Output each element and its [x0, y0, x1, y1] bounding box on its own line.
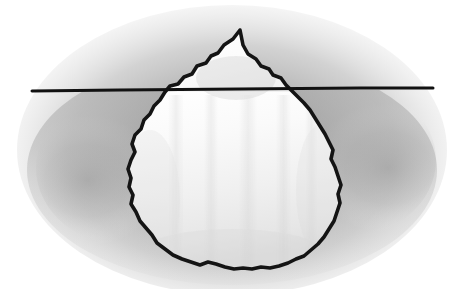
illustration-canvas: Iceberg Cross-section of an iceberg show… — [0, 0, 464, 289]
iceberg-illustration — [0, 0, 464, 289]
